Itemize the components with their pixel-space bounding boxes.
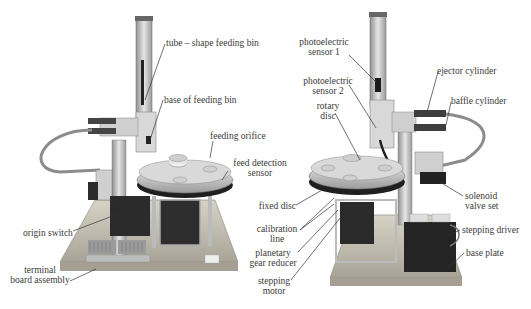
label-line-1: photoelectric [295, 37, 353, 47]
label-feed-detection-sensor: feed detection sensor [226, 158, 294, 178]
label-terminal-board-assembly: terminal board assembly [8, 265, 72, 285]
label-photoelectric-sensor-1: photoelectric sensor 1 [295, 37, 353, 57]
label-base-plate: base plate [466, 248, 504, 258]
label-solenoid-valve-set: solenoid valve set [465, 191, 499, 211]
label-line-2: valve set [465, 201, 499, 211]
label-base-of-feeding-bin: base of feeding bin [164, 95, 237, 105]
label-line-2: sensor 1 [295, 47, 353, 57]
label-stepping-driver: stepping driver [462, 225, 519, 235]
label-line-1: planetary [244, 248, 302, 258]
label-line-1: solenoid [465, 191, 499, 201]
label-line-2: motor [254, 286, 294, 296]
label-line-2: sensor [226, 168, 294, 178]
label-baffle-cylinder: baffle cylinder [451, 96, 506, 106]
label-feeding-orifice: feeding orifice [210, 131, 266, 141]
label-origin-switch: origin switch [23, 228, 73, 238]
label-photoelectric-sensor-2: photoelectric sensor 2 [299, 76, 357, 96]
label-rotary-disc: rotary disc [311, 101, 345, 121]
label-line-1: calibration [254, 224, 300, 234]
label-line-2: line [254, 234, 300, 244]
label-line-1: stepping [254, 276, 294, 286]
figure-stage: tube – shape feeding bin base of feeding… [0, 0, 531, 309]
label-line-1: rotary [311, 101, 345, 111]
label-line-1: terminal [8, 265, 72, 275]
label-ejector-cylinder: ejector cylinder [437, 66, 496, 76]
label-fixed-disc: fixed disc [250, 201, 296, 211]
label-line-1: photoelectric [299, 76, 357, 86]
label-line-2: sensor 2 [299, 86, 357, 96]
label-planetary-gear-reducer: planetary gear reducer [244, 248, 302, 268]
label-line-1: feed detection [226, 158, 294, 168]
label-line-2: disc [311, 111, 345, 121]
label-tube-feeding-bin: tube – shape feeding bin [166, 38, 259, 48]
label-calibration-line: calibration line [254, 224, 300, 244]
label-line-2: gear reducer [244, 258, 302, 268]
label-stepping-motor: stepping motor [254, 276, 294, 296]
label-line-2: board assembly [8, 275, 72, 285]
